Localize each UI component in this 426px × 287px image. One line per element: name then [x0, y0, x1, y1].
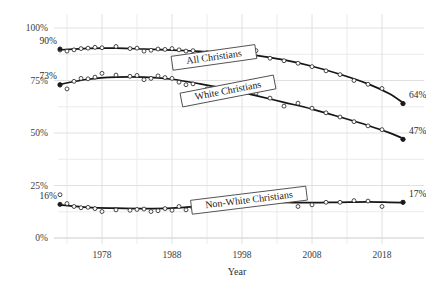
data-point	[184, 49, 188, 53]
data-point	[296, 205, 300, 209]
data-point	[79, 76, 83, 80]
data-point	[177, 205, 181, 209]
christian-affiliation-trend-chart: 0%25%50%75%100% 19781988199820082018 90%…	[0, 0, 426, 287]
data-point	[93, 207, 97, 211]
data-point	[170, 47, 174, 51]
data-point	[191, 49, 195, 53]
xtick-label: 1978	[93, 250, 112, 260]
chart-container: 0%25%50%75%100% 19781988199820082018 90%…	[0, 0, 426, 287]
data-point	[310, 65, 314, 69]
series-label-all-christians: All Christians	[171, 45, 257, 71]
data-point	[114, 73, 118, 77]
data-point	[282, 59, 286, 63]
data-point	[93, 45, 97, 49]
xtick-labels: 19781988199820082018	[93, 250, 392, 260]
data-point	[310, 203, 314, 207]
data-point	[184, 83, 188, 87]
data-point	[72, 79, 76, 83]
data-point	[156, 209, 160, 213]
data-point	[72, 205, 76, 209]
data-point	[135, 207, 139, 211]
series-label-non-white-christians: Non-White Christians	[191, 186, 308, 214]
data-point	[114, 45, 118, 49]
data-point	[100, 210, 104, 214]
data-point	[163, 76, 167, 80]
endpoint-value-label: 16%	[40, 191, 58, 201]
data-point	[114, 208, 118, 212]
data-point	[163, 207, 167, 211]
x-axis-title: Year	[228, 266, 247, 277]
data-point	[163, 47, 167, 51]
data-point	[170, 208, 174, 212]
data-point	[149, 210, 153, 214]
ytick-labels: 0%25%50%75%100%	[26, 23, 48, 243]
data-point	[352, 120, 356, 124]
endpoint-value-label: 64%	[409, 90, 426, 100]
data-point	[170, 76, 174, 80]
data-point	[65, 49, 69, 53]
data-point	[177, 48, 181, 52]
data-point	[282, 104, 286, 108]
data-point	[79, 47, 83, 51]
data-point	[135, 74, 139, 78]
endpoint-marker-end	[401, 137, 405, 141]
xtick-label: 1998	[233, 250, 252, 260]
data-point	[128, 208, 132, 212]
endpoint-marker-start	[58, 47, 62, 51]
endpoint-marker-end	[401, 102, 405, 106]
data-point	[149, 76, 153, 80]
ytick-label: 0%	[35, 233, 48, 243]
data-point	[72, 48, 76, 52]
xtick-label: 1988	[163, 250, 182, 260]
series-layer	[58, 45, 405, 214]
data-point	[156, 47, 160, 51]
endpoint-value-label: 17%	[409, 189, 426, 199]
data-point	[86, 77, 90, 81]
data-point	[184, 208, 188, 212]
ytick-label: 50%	[31, 128, 49, 138]
data-point	[268, 96, 272, 100]
ytick-label: 25%	[31, 181, 49, 191]
xtick-label: 2018	[373, 250, 392, 260]
data-point	[338, 73, 342, 77]
endpoint-value-label: 47%	[409, 126, 426, 136]
data-point	[296, 61, 300, 65]
data-point	[65, 87, 69, 91]
data-point	[100, 71, 104, 75]
data-point	[352, 79, 356, 83]
series-inline-labels: All ChristiansWhite ChristiansNon-White …	[171, 45, 307, 215]
endpoint-marker-end	[401, 200, 405, 204]
data-point	[128, 47, 132, 51]
data-point	[324, 111, 328, 115]
data-point	[380, 128, 384, 132]
data-point	[338, 200, 342, 204]
data-point	[65, 202, 69, 206]
data-point	[128, 74, 132, 78]
data-point	[352, 199, 356, 203]
data-point	[366, 124, 370, 128]
data-point	[324, 200, 328, 204]
data-point	[86, 205, 90, 209]
data-point	[135, 46, 139, 50]
data-point	[156, 74, 160, 78]
data-point	[324, 69, 328, 73]
endpoint-value-label: 90%	[40, 36, 58, 46]
data-point	[142, 207, 146, 211]
data-point	[100, 46, 104, 50]
data-point	[380, 87, 384, 91]
xtick-label: 2008	[303, 250, 322, 260]
data-point	[380, 205, 384, 209]
data-point	[366, 82, 370, 86]
data-point	[268, 56, 272, 60]
data-point	[191, 82, 195, 86]
endpoint-marker-start	[58, 83, 62, 87]
data-point	[149, 48, 153, 52]
data-point	[86, 46, 90, 50]
data-point	[177, 80, 181, 84]
data-point	[338, 115, 342, 119]
series-label-white-christians: White Christians	[180, 75, 276, 107]
data-point	[310, 106, 314, 110]
data-point	[93, 75, 97, 79]
data-point	[79, 206, 83, 210]
data-point	[58, 193, 62, 197]
